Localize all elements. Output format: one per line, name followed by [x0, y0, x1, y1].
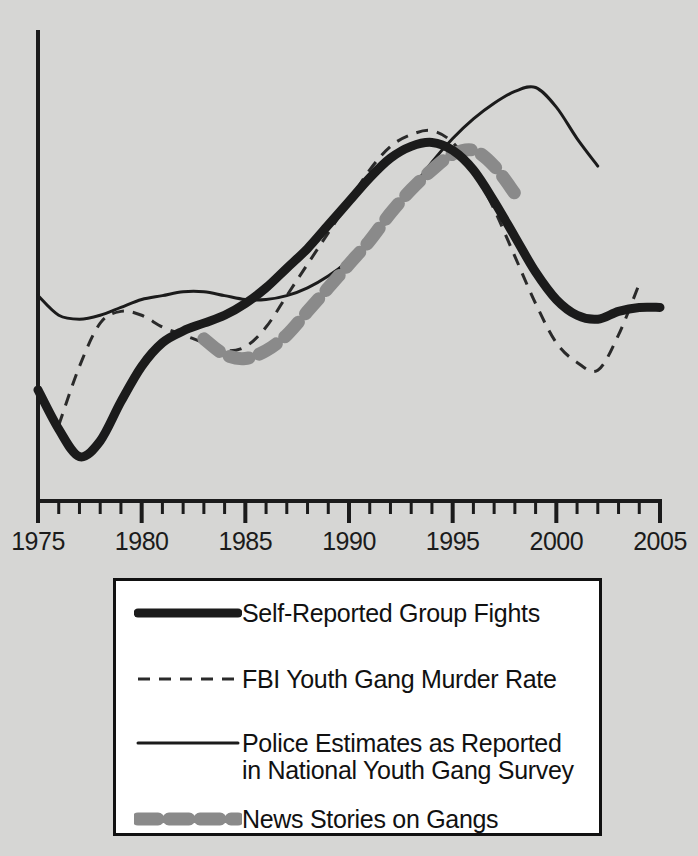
legend-label: News Stories on Gangs [242, 805, 498, 833]
legend-item[interactable]: News Stories on Gangs [116, 805, 599, 833]
series-line [59, 130, 640, 425]
legend-swatch-icon [134, 599, 242, 627]
series-lines [38, 87, 660, 457]
legend-label-line1: FBI Youth Gang Murder Rate [242, 665, 557, 693]
x-tick-label: 1980 [115, 527, 169, 556]
legend-item[interactable]: Self-Reported Group Fights [116, 599, 599, 627]
legend-label-line1: Self-Reported Group Fights [242, 599, 540, 627]
x-tick-label: 1995 [426, 527, 480, 556]
legend-label-line2: in National Youth Gang Survey [242, 757, 574, 784]
chart-container: 1975198019851990199520002005 Self-Report… [0, 0, 698, 856]
chart-legend: Self-Reported Group FightsFBI Youth Gang… [113, 578, 602, 836]
legend-label-line1: News Stories on Gangs [242, 805, 498, 833]
legend-item[interactable]: Police Estimates as Reportedin National … [116, 729, 599, 784]
x-axis-ticks [38, 501, 660, 523]
legend-swatch-icon [134, 665, 242, 693]
legend-label: Police Estimates as Reportedin National … [242, 729, 574, 784]
legend-label: FBI Youth Gang Murder Rate [242, 665, 557, 693]
x-tick-label: 2005 [633, 527, 687, 556]
legend-label-line1: Police Estimates as Reported [242, 729, 562, 757]
series-line [38, 142, 660, 457]
series-line [204, 150, 515, 359]
x-tick-label: 1990 [322, 527, 376, 556]
x-tick-label: 1985 [219, 527, 273, 556]
legend-swatch-icon [134, 729, 242, 757]
series-line [38, 87, 598, 320]
legend-swatch-icon [134, 805, 242, 833]
legend-label: Self-Reported Group Fights [242, 599, 540, 627]
x-tick-label: 2000 [530, 527, 584, 556]
legend-item[interactable]: FBI Youth Gang Murder Rate [116, 665, 599, 693]
x-tick-label: 1975 [11, 527, 65, 556]
